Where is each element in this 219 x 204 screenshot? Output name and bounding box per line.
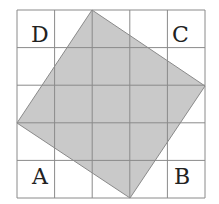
label-b: B <box>174 166 190 188</box>
label-c: C <box>172 24 189 46</box>
label-a: A <box>32 166 48 188</box>
label-d: D <box>31 24 49 46</box>
